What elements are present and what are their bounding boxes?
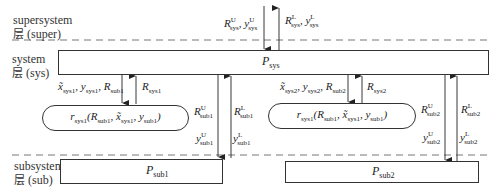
- label-left-down: x̃sys1, ysys1, Rsub1: [58, 80, 124, 95]
- layer-abbr: (sub): [28, 173, 53, 187]
- label-right-up: Rsys2: [367, 80, 386, 95]
- label-sub1-yL: yLsub1: [233, 131, 250, 147]
- capsule-left-formula: rsys1(Rsub1, x̃sys1, ysub1): [70, 110, 161, 125]
- layer-name-zh: 层 (sys): [12, 66, 49, 81]
- zh-char: 层: [13, 28, 24, 41]
- capsule-left: rsys1(Rsub1, x̃sys1, ysub1): [42, 105, 189, 131]
- label-sub1-RL: RLsub1: [234, 104, 253, 120]
- subsystem1-box-label: Psub1: [146, 163, 168, 179]
- zh-char: 层: [12, 67, 23, 80]
- label-left-up: Rsys1: [142, 80, 161, 95]
- capsule-right-formula: rsys1(Rsub1, x̃sys1, ysub1): [297, 108, 388, 123]
- subsystem2-box-label: Psub2: [372, 164, 394, 180]
- box-subscript: sub1: [153, 170, 168, 179]
- layer-label-subsystem: subsystem 层 (sub): [14, 159, 64, 188]
- capsule-right: rsys1(Rsub1, x̃sys1, ysub1): [268, 103, 416, 129]
- layer-abbr: (super): [27, 27, 61, 41]
- layer-name-zh: 层 (super): [13, 27, 72, 42]
- box-subscript: sys: [269, 61, 279, 70]
- label-sub2-RL: RLsub2: [461, 102, 480, 118]
- layer-abbr: (sys): [26, 66, 49, 80]
- label-sub2-yU: yUsub2: [423, 130, 440, 146]
- layer-name: subsystem: [14, 159, 64, 173]
- label-sub2-RU: RUsub2: [421, 102, 440, 118]
- layer-name: supersystem: [13, 13, 72, 27]
- label-sub2-yL: yLsub2: [460, 130, 477, 146]
- subsystem1-box: [60, 159, 223, 184]
- layer-name-zh: 层 (sub): [14, 173, 64, 188]
- layer-label-supersystem: supersystem 层 (super): [13, 13, 72, 42]
- box-subscript: sub2: [379, 171, 394, 180]
- system-box-label: Psys: [262, 54, 280, 70]
- label-sub1-RU: RUsub1: [194, 104, 213, 120]
- label-top-down: RUsys, yUsys: [224, 16, 257, 32]
- label-right-down: x̃sys2, ysys2, Rsub2: [280, 80, 346, 95]
- label-sub1-yU: yUsub1: [196, 131, 213, 147]
- zh-char: 层: [14, 174, 25, 187]
- layer-name: system: [12, 52, 49, 66]
- layer-label-system: system 层 (sys): [12, 52, 49, 81]
- label-top-up: RLsys, yLsys: [285, 13, 319, 29]
